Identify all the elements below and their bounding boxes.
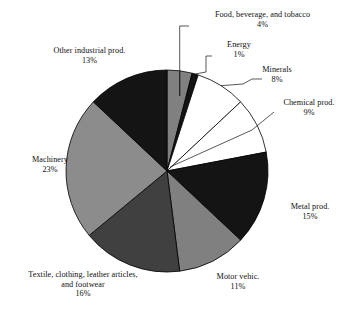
slice-label-motor-vehic: Motor vehic. 11% [205,272,271,291]
slice-label-percent: 13% [36,56,143,66]
slice-label-textile-clothing-leather-footwear: Textile, clothing, leather articles, and… [7,270,159,299]
slice-label-minerals: Minerals 8% [240,65,314,84]
slice-label-title: Energy [203,40,275,50]
slice-label-machinery: Machinery 23% [19,155,81,174]
slice-label-title: Food, beverage, and tobacco [181,10,344,20]
slice-label-title-line1: Textile, clothing, leather articles, [7,270,159,280]
slice-label-title: Chemical prod. [272,98,346,108]
slice-label-title: Motor vehic. [205,272,271,282]
slice-label-percent: 16% [7,289,159,299]
slice-label-title: Other industrial prod. [36,46,143,56]
slice-label-title: Metal prod. [278,202,342,212]
slice-label-other-industrial-prod: Other industrial prod. 13% [36,46,143,65]
slice-label-title-line2: and footwear [7,280,159,290]
pie-chart: Food, beverage, and tobacco 4% Energy 1%… [0,0,349,320]
slice-label-percent: 9% [272,108,346,118]
slice-label-percent: 15% [278,212,342,222]
slice-label-percent: 23% [19,165,81,175]
pie-slices-group [66,70,268,272]
slice-label-title: Machinery [19,155,81,165]
slice-label-metal-prod: Metal prod. 15% [278,202,342,221]
slice-label-energy: Energy 1% [203,40,275,59]
slice-label-food-beverage-tobacco: Food, beverage, and tobacco 4% [181,10,344,29]
slice-label-percent: 1% [203,50,275,60]
slice-label-percent: 11% [205,282,271,292]
slice-label-title: Minerals [240,65,314,75]
slice-label-percent: 4% [181,20,344,30]
slice-label-percent: 8% [240,75,314,85]
slice-label-chemical-prod: Chemical prod. 9% [272,98,346,117]
